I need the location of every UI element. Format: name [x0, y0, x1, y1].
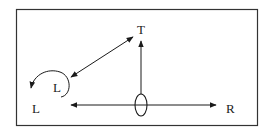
label-left-inner: L	[53, 80, 61, 95]
curved-loop-arrow	[31, 71, 69, 97]
diagonal-double-arrow	[71, 37, 133, 77]
diagram-canvas: T R L L	[0, 0, 272, 133]
label-right: R	[226, 101, 235, 116]
label-top: T	[137, 22, 145, 37]
label-left-outer: L	[32, 101, 40, 116]
